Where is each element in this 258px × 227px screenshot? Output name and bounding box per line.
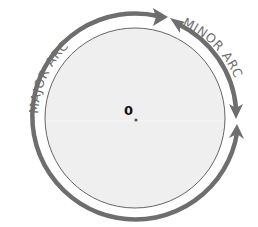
center-label: 0 [124, 103, 133, 118]
center-point [134, 118, 137, 121]
circle [45, 28, 225, 208]
arc-diagram: 0 MAJOR ARC MINOR ARC [0, 0, 258, 227]
